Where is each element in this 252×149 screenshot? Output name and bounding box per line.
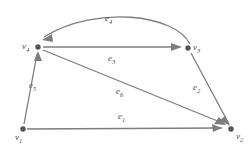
vertex-v3-dot <box>185 45 190 50</box>
vertex-label-v2: v2 <box>236 132 243 143</box>
edge-e4-line <box>44 17 190 44</box>
edge-e5-arrowhead <box>34 51 42 61</box>
edge-label-e6: e6 <box>116 87 123 98</box>
edge-label-e4: e4 <box>105 14 112 25</box>
edge-e1-arrowhead <box>212 124 222 132</box>
vertex-label-v1: v1 <box>15 133 22 144</box>
graph-figure: v1 v2 v3 v4 e1 e2 e3 e4 e5 e6 <box>0 0 252 149</box>
edge-label-e3: e3 <box>108 54 115 65</box>
edge-e1-line <box>27 128 222 129</box>
edge-e3-arrowhead <box>171 43 182 51</box>
edge-label-e5: e5 <box>29 81 36 92</box>
vertex-v1-dot <box>20 126 25 131</box>
vertex-label-v4: v4 <box>22 42 29 53</box>
edge-label-e2: e2 <box>193 83 200 94</box>
edge-label-e1: e1 <box>118 112 125 123</box>
vertex-v2-dot <box>228 126 233 131</box>
graph-canvas <box>0 0 252 149</box>
vertex-v4-dot <box>35 44 40 49</box>
vertex-label-v3: v3 <box>193 43 200 54</box>
